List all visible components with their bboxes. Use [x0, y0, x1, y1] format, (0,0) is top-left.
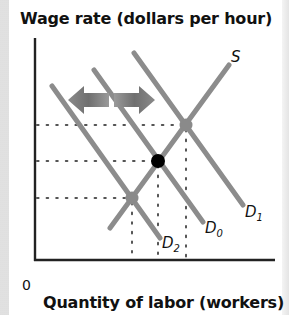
equilibrium-point-d2	[126, 192, 139, 205]
supply-label: S	[231, 48, 241, 66]
x-axis-title: Quantity of labor (workers)	[43, 293, 284, 312]
equilibrium-point-d0	[151, 154, 165, 168]
equilibrium-point-d1	[180, 119, 193, 132]
supply-curve-s	[110, 65, 229, 228]
shift-left-arrow-icon	[68, 86, 109, 114]
demand-label-d2: D2	[162, 234, 180, 254]
demand-label-d1: D1	[245, 203, 263, 223]
demand-curve-d0	[94, 70, 203, 222]
demand-label-d0: D0	[205, 219, 223, 239]
origin-label: 0	[22, 277, 31, 293]
labor-market-diagram: S D1 D0 D2	[0, 0, 289, 315]
